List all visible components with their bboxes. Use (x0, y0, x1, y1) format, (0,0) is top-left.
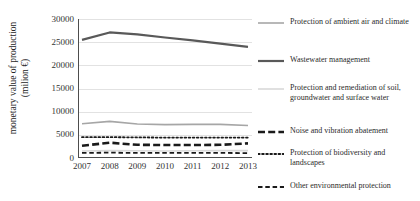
legend-label: Noise and vibration abatement (290, 126, 420, 136)
series-lines (78, 19, 252, 158)
legend-label: Protection of biodiversity and landscape… (290, 148, 420, 167)
x-axis-tick-labels: 2007200820092010201120122013 (78, 161, 252, 175)
legend-line-swatch (258, 126, 284, 138)
series-line (82, 143, 248, 146)
legend-line-swatch (258, 83, 284, 95)
y-tick-label: 30000 (30, 15, 74, 24)
y-tick-label: 25000 (30, 38, 74, 47)
chart-figure: monetary value of production (milion €) … (0, 0, 420, 201)
y-tick-label: 5000 (30, 130, 74, 139)
legend-label: Wastewater management (290, 55, 420, 65)
legend-line-swatch (258, 148, 284, 160)
legend-item[interactable]: Noise and vibration abatement (258, 126, 420, 138)
series-line (82, 121, 248, 125)
legend-item[interactable]: Protection and remediation of soil, grou… (258, 83, 420, 102)
chart-legend: Protection of ambient air and climateWas… (258, 11, 420, 191)
legend-line-swatch (258, 55, 284, 67)
y-axis-tick-labels: 300002500020000150001000050000 (28, 19, 74, 158)
y-tick-label: 20000 (30, 61, 74, 70)
legend-label: Other environmental protection (290, 181, 420, 191)
y-tick-label: 15000 (30, 84, 74, 93)
legend-label: Protection and remediation of soil, grou… (290, 83, 420, 102)
legend-label: Protection of ambient air and climate (290, 17, 420, 27)
legend-item[interactable]: Other environmental protection (258, 181, 420, 193)
legend-item[interactable]: Wastewater management (258, 55, 420, 67)
plot-area (78, 19, 252, 158)
legend-line-swatch (258, 17, 284, 29)
y-tick-label: 10000 (30, 107, 74, 116)
legend-line-swatch (258, 181, 284, 193)
legend-item[interactable]: Protection of ambient air and climate (258, 17, 420, 29)
legend-item[interactable]: Protection of biodiversity and landscape… (258, 148, 420, 167)
series-line (82, 32, 248, 46)
